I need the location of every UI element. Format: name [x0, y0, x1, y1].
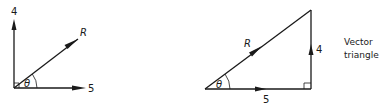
- horizontal-vector-label: 5: [88, 83, 94, 94]
- caption-line-2: triangle: [344, 50, 379, 60]
- angle-arc: [32, 74, 37, 88]
- vector-diagram-canvas: 4 5 R θ 5 4 R θ Vector tr: [0, 0, 388, 107]
- right-angle-marker: [304, 83, 311, 89]
- base-label: 5: [263, 94, 269, 105]
- resultant-label: R: [80, 27, 87, 38]
- side-label: 4: [316, 44, 322, 55]
- vertical-vector-label: 4: [11, 6, 17, 17]
- arrowhead-up-icon: [12, 19, 17, 30]
- vector-triangle-diagram: 5 4 R θ Vector triangle: [205, 10, 379, 105]
- hypotenuse-label: R: [244, 38, 251, 49]
- arrowhead-diagonal-icon: [65, 39, 79, 49]
- arrowhead-up-icon: [309, 44, 314, 55]
- arrowhead-right-icon: [72, 86, 86, 91]
- caption-line-1: Vector: [344, 37, 373, 47]
- angle-arc: [225, 74, 230, 89]
- component-diagram: 4 5 R θ: [11, 6, 94, 94]
- arrowhead-right-icon: [255, 87, 266, 92]
- angle-label: θ: [24, 78, 30, 89]
- angle-label: θ: [216, 79, 222, 90]
